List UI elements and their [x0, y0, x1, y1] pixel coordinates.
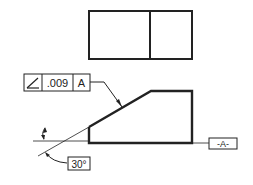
- front-view-outline: [89, 91, 192, 143]
- datum-label: -A-: [217, 139, 229, 149]
- top-view-outline: [89, 11, 192, 59]
- fcf-datum: A: [78, 77, 86, 89]
- angle-label: 30°: [71, 159, 86, 170]
- top-view: [89, 11, 192, 59]
- angularity-icon: [27, 78, 39, 88]
- drawing-canvas: .009 A -A- 30°: [0, 0, 253, 185]
- datum-reference: -A-: [192, 138, 237, 149]
- leader-line: [90, 82, 122, 107]
- fcf-tolerance: .009: [47, 77, 68, 89]
- front-view: [89, 91, 192, 143]
- feature-control-frame: .009 A: [24, 74, 122, 107]
